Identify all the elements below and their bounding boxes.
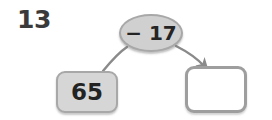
input-value-label: 65 [71, 81, 103, 104]
input-connector [103, 47, 127, 71]
operation-oval: − 17 [119, 14, 183, 52]
output-answer-box[interactable] [185, 66, 247, 113]
input-value-box: 65 [56, 71, 118, 113]
output-arrow [176, 46, 205, 67]
operation-label: − 17 [125, 23, 177, 43]
worksheet-problem: 13 − 17 65 [0, 0, 272, 120]
